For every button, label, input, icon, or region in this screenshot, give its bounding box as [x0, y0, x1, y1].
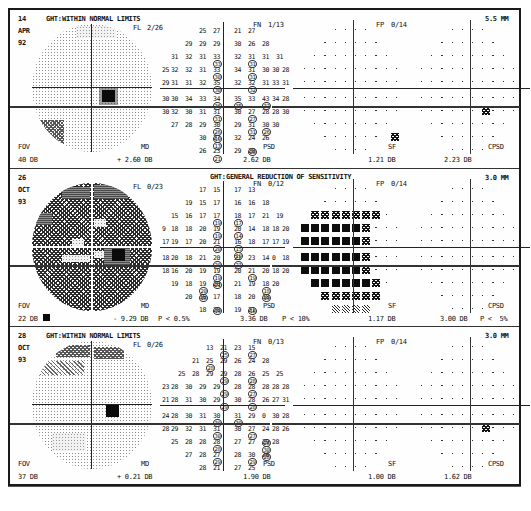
- md-value: + 2.60 DB: [117, 156, 152, 164]
- deviation-symbol-normal: [428, 211, 436, 219]
- deviation-symbol-normal: [362, 185, 370, 193]
- deviation-symbol-normal: [438, 279, 446, 287]
- deviation-symbol-normal: [332, 120, 340, 128]
- threshold-value: 32: [234, 54, 241, 61]
- deviation-symbol-normal: [383, 395, 391, 403]
- deviation-symbol-normal: [418, 78, 426, 86]
- fov-value: 22 DB: [18, 315, 38, 323]
- deviation-symbol-normal: [383, 237, 391, 245]
- retest-threshold-value: 30: [213, 86, 222, 94]
- deviation-symbol-normal: [372, 39, 380, 47]
- deviation-symbol-p1: [362, 292, 370, 300]
- deviation-symbol-normal: [362, 424, 370, 432]
- deviation-symbol-normal: [311, 411, 319, 419]
- test-date-month: APR: [18, 27, 30, 35]
- deviation-symbol-normal: [449, 237, 457, 245]
- deviation-symbol-normal: [438, 253, 446, 261]
- threshold-value: 18: [262, 200, 269, 207]
- deviation-symbol-normal: [332, 369, 340, 377]
- threshold-value: 28: [162, 426, 169, 433]
- threshold-value: 27: [171, 122, 178, 129]
- deviation-symbol-normal: [449, 52, 457, 60]
- threshold-value: 18: [185, 255, 192, 262]
- deviation-symbol-p1: [321, 292, 329, 300]
- cpsd-pvalue: P < 5%: [480, 315, 507, 323]
- deviation-symbol-normal: [342, 78, 350, 86]
- deviation-symbol-normal: [418, 107, 426, 115]
- deviation-symbol-normal: [321, 107, 329, 115]
- deviation-symbol-normal: [479, 305, 487, 313]
- deviation-symbol-normal: [372, 411, 380, 419]
- deviation-symbol-normal: [342, 120, 350, 128]
- deviation-symbol-p1: [482, 424, 490, 432]
- deviation-symbol-normal: [500, 279, 508, 287]
- deviation-symbol-p0.5: [342, 224, 350, 232]
- deviation-symbol-p0.5: [332, 253, 340, 261]
- threshold-value: 21: [234, 281, 241, 288]
- deviation-symbol-normal: [332, 411, 340, 419]
- deviation-symbol-normal: [321, 52, 329, 60]
- deviation-symbol-normal: [489, 411, 497, 419]
- retest-threshold-value: 25: [220, 351, 229, 359]
- threshold-value: 21: [199, 255, 206, 262]
- deviation-symbol-normal: [500, 120, 508, 128]
- deviation-symbol-normal: [438, 292, 446, 300]
- test-date-day: 26: [18, 174, 26, 182]
- deviation-symbol-normal: [372, 369, 380, 377]
- deviation-symbol-normal: [438, 78, 446, 86]
- deviation-symbol-normal: [449, 279, 457, 287]
- deviation-symbol-normal: [438, 211, 446, 219]
- retest-threshold-value: 21: [213, 155, 222, 163]
- deviation-symbol-normal: [342, 146, 350, 154]
- deviation-symbol-normal: [428, 78, 436, 86]
- deviation-symbol-normal: [372, 450, 380, 458]
- deviation-symbol-normal: [321, 395, 329, 403]
- blind-spot-marker: [106, 405, 119, 417]
- threshold-value: 33: [272, 80, 279, 87]
- deviation-symbol-normal: [510, 224, 518, 232]
- deviation-symbol-normal: [449, 211, 457, 219]
- deviation-symbol-normal: [342, 395, 350, 403]
- deviation-symbol-p0.5: [321, 253, 329, 261]
- deviation-symbol-normal: [321, 198, 329, 206]
- deviation-symbol-normal: [459, 224, 467, 232]
- threshold-value: 32: [234, 135, 241, 142]
- threshold-value: 32: [199, 80, 206, 87]
- ght-label: GHT:: [46, 332, 62, 340]
- vertical-axis: [91, 24, 92, 152]
- threshold-value: 32: [234, 80, 241, 87]
- deviation-symbol-normal: [479, 26, 487, 34]
- deviation-symbol-normal: [301, 395, 309, 403]
- deviation-symbol-normal: [362, 369, 370, 377]
- cpsd-label: CPSD: [488, 460, 504, 468]
- deviation-symbol-normal: [301, 424, 309, 432]
- deviation-symbol-normal: [332, 198, 340, 206]
- threshold-value: 21: [213, 465, 220, 472]
- deviation-symbol-normal: [479, 94, 487, 102]
- deviation-symbol-normal: [489, 450, 497, 458]
- deviation-symbol-normal: [332, 382, 340, 390]
- threshold-value: 15: [199, 200, 206, 207]
- deviation-symbol-normal: [459, 356, 467, 364]
- cpsd-value: 3.00 DB: [440, 315, 467, 323]
- deviation-symbol-normal: [449, 146, 457, 154]
- deviation-symbol-p1: [342, 292, 350, 300]
- threshold-value: 14: [248, 226, 255, 233]
- threshold-value: 27: [213, 28, 220, 35]
- test-date-year: 93: [18, 198, 26, 206]
- deviation-symbol-normal: [321, 39, 329, 47]
- horizontal-axis: [160, 247, 285, 248]
- deviation-symbol-normal: [393, 424, 401, 432]
- threshold-value: 28: [272, 439, 279, 446]
- deviation-symbol-normal: [362, 26, 370, 34]
- threshold-value: 25: [248, 465, 255, 472]
- deviation-symbol-normal: [438, 94, 446, 102]
- threshold-value: 29: [185, 41, 192, 48]
- deviation-symbol-normal: [332, 133, 340, 141]
- deviation-symbol-p0.5: [321, 237, 329, 245]
- deviation-symbol-normal: [449, 369, 457, 377]
- deviation-symbol-normal: [362, 52, 370, 60]
- threshold-value: 0: [262, 413, 266, 420]
- deviation-symbol-normal: [489, 395, 497, 403]
- deviation-symbol-normal: [459, 65, 467, 73]
